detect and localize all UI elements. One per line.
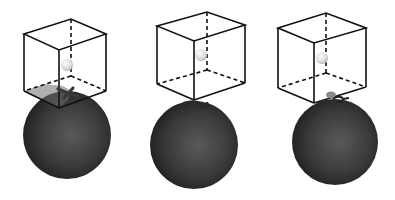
ball — [195, 49, 207, 61]
sphere — [23, 91, 111, 179]
panel-2 — [150, 12, 245, 189]
sphere — [150, 101, 238, 189]
ball — [61, 59, 73, 71]
panel-1 — [23, 19, 111, 179]
ball — [316, 52, 328, 64]
figure-canvas — [0, 0, 395, 200]
sphere — [292, 99, 378, 185]
diagram-svg — [0, 0, 395, 200]
panel-3 — [278, 13, 378, 185]
